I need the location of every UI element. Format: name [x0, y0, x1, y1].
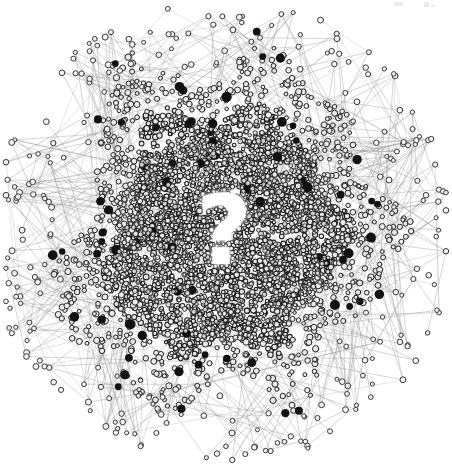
top-right-artifact-mark-3 — [431, 4, 435, 7]
network-graph-figure: ? — [0, 0, 452, 466]
top-right-artifact-mark-1 — [394, 2, 403, 6]
top-right-artifact-mark-2 — [424, 2, 429, 7]
network-graph-canvas — [0, 0, 452, 466]
